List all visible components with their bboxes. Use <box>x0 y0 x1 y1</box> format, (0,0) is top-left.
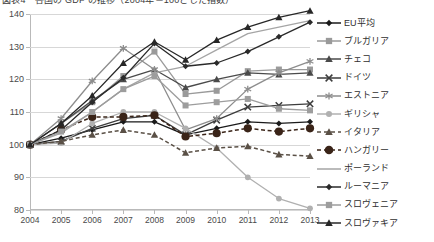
legend-label: チェコ <box>344 55 371 64</box>
data-point-square <box>326 38 332 44</box>
data-point-diamond <box>307 119 313 125</box>
y-axis-tick-label: 100 <box>9 140 24 150</box>
data-point-diamond <box>245 119 251 125</box>
data-point-bigcircle <box>275 128 283 136</box>
series-EU平均 <box>27 119 313 148</box>
x-axis-tick-label: 2011 <box>239 215 257 225</box>
x-tick-mark <box>217 210 218 214</box>
x-axis-tick-label: 2005 <box>52 215 71 225</box>
legend-label: EU平均 <box>344 19 375 28</box>
legend-label: スロヴェニア <box>344 200 398 209</box>
series-line <box>30 76 310 145</box>
x-axis-tick-label: 2006 <box>83 215 102 225</box>
x-tick-mark <box>92 210 93 214</box>
gridline <box>30 210 310 211</box>
legend-symbol-square-icon <box>316 35 342 47</box>
data-point-star <box>307 58 314 65</box>
legend-label: ブルガリア <box>344 37 389 46</box>
legend-item-4[interactable]: エストニア <box>316 87 434 105</box>
legend-label: ギリシャ <box>344 110 380 119</box>
legend-item-1[interactable]: ブルガリア <box>316 32 434 50</box>
data-point-bigcircle <box>119 113 127 121</box>
x-axis-tick-label: 2010 <box>207 215 226 225</box>
series-エストニア <box>27 45 314 148</box>
chart-legend: EU平均ブルガリアチェコドイツエストニアギリシャイタリアハンガリーポーランドルー… <box>316 14 434 232</box>
data-point-triangle <box>89 131 96 138</box>
x-axis-tick-label: 2009 <box>176 215 195 225</box>
data-point-circle <box>183 125 189 131</box>
y-axis-tick-label: 140 <box>9 9 24 19</box>
chart-title: 図表4 各国の GDP の推移（2004年＝100とした指数） <box>2 0 235 6</box>
legend-item-10[interactable]: スロヴェニア <box>316 196 434 214</box>
data-point-square <box>214 99 220 105</box>
x-axis-tick-label: 2004 <box>21 215 40 225</box>
legend-item-5[interactable]: ギリシャ <box>316 105 434 123</box>
data-point-square <box>151 73 157 79</box>
data-point-triangle <box>213 37 220 44</box>
legend-item-7[interactable]: ハンガリー <box>316 141 434 159</box>
x-axis-tick-label: 2008 <box>145 215 164 225</box>
legend-symbol-diamond-icon <box>316 17 342 29</box>
legend-symbol-bigcircle-icon <box>316 144 342 156</box>
data-point-square <box>245 96 251 102</box>
data-point-square <box>120 86 126 92</box>
data-point-diamond <box>326 184 332 190</box>
x-axis-tick-label: 2007 <box>114 215 133 225</box>
legend-symbol-square-icon <box>316 199 342 211</box>
legend-symbol-diamond-icon <box>316 181 342 193</box>
legend-label: ルーマニア <box>344 182 389 191</box>
x-tick-mark <box>61 210 62 214</box>
series-line <box>30 70 310 145</box>
data-point-bigcircle <box>325 146 334 155</box>
data-point-bigcircle <box>213 129 221 137</box>
data-point-circle <box>276 196 282 202</box>
data-point-square <box>214 88 220 94</box>
data-point-triangle <box>120 59 127 66</box>
legend-symbol-triangle-icon <box>316 126 342 138</box>
legend-symbol-cross-icon <box>316 72 342 84</box>
data-point-bigcircle <box>150 111 158 119</box>
y-axis-tick-label: 120 <box>9 74 24 84</box>
data-point-bigcircle <box>244 124 252 132</box>
legend-symbol-triangle-icon <box>316 53 342 65</box>
legend-item-8[interactable]: ポーランド <box>316 160 434 178</box>
series-layer <box>30 14 310 210</box>
legend-item-9[interactable]: ルーマニア <box>316 178 434 196</box>
data-point-diamond <box>276 34 282 40</box>
legend-item-6[interactable]: イタリア <box>316 123 434 141</box>
data-point-triangle <box>244 143 251 150</box>
x-tick-mark <box>30 210 31 214</box>
data-point-bigcircle <box>306 124 314 132</box>
data-point-circle <box>326 111 332 117</box>
data-point-bigcircle <box>181 132 189 140</box>
x-tick-mark <box>248 210 249 214</box>
data-point-diamond <box>245 49 251 55</box>
data-point-circle <box>89 121 95 127</box>
data-point-diamond <box>151 119 157 125</box>
legend-item-0[interactable]: EU平均 <box>316 14 434 32</box>
x-tick-mark <box>154 210 155 214</box>
legend-symbol-none-icon <box>316 163 342 175</box>
data-point-diamond <box>276 120 282 126</box>
data-point-square <box>58 129 64 135</box>
data-point-diamond <box>326 20 332 26</box>
legend-symbol-triangle-icon <box>316 217 342 229</box>
data-point-triangle <box>182 149 189 156</box>
data-point-square <box>326 202 332 208</box>
legend-item-3[interactable]: ドイツ <box>316 69 434 87</box>
y-axis-tick-label: 130 <box>9 42 24 52</box>
legend-item-11[interactable]: スロヴァキア <box>316 214 434 232</box>
y-axis-tick-label: 80 <box>14 205 24 215</box>
data-point-diamond <box>307 19 313 25</box>
data-point-square <box>183 91 189 97</box>
series-ブルガリア <box>27 49 313 148</box>
data-point-square <box>307 107 313 113</box>
data-point-triangle <box>182 56 189 63</box>
data-point-diamond <box>214 60 220 66</box>
y-axis-tick-label: 110 <box>10 107 24 117</box>
data-point-triangle <box>151 38 158 45</box>
series-line <box>30 130 310 156</box>
x-tick-mark <box>123 210 124 214</box>
legend-item-2[interactable]: チェコ <box>316 50 434 68</box>
data-point-square <box>183 102 189 108</box>
